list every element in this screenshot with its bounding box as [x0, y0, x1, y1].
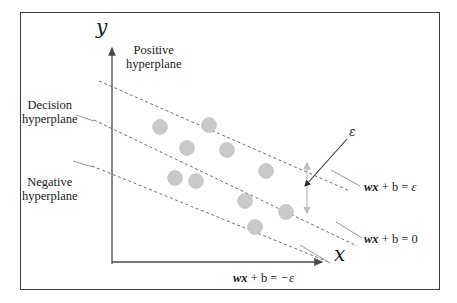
negative-equation-leader: [300, 245, 330, 263]
decision-label-leader: [76, 115, 94, 121]
negative-eq-value: −ε: [280, 271, 293, 285]
x-axis-label: x: [334, 243, 345, 265]
positive-eq-value: ε: [411, 180, 416, 194]
data-point: [168, 171, 183, 186]
positive-hyperplane-line: [99, 81, 350, 191]
data-point: [279, 205, 294, 220]
negative-label-leader: [73, 161, 93, 167]
data-point: [220, 143, 235, 158]
figure-root: y x Positive hyperplane Decision hyperpl…: [0, 0, 457, 303]
data-point: [248, 220, 263, 235]
data-point: [238, 194, 253, 209]
data-point: [202, 118, 217, 133]
data-point: [189, 174, 204, 189]
decision-equation-leader: [336, 222, 362, 238]
positive-hyperplane-equation: wx + b = ε: [364, 180, 416, 194]
decision-eq-operator: + b =: [379, 232, 412, 246]
positive-hyperplane-label: Positive hyperplane: [126, 43, 182, 71]
positive-eq-vector: wx: [364, 180, 379, 194]
negative-eq-vector: wx: [233, 271, 248, 285]
negative-hyperplane-line: [92, 166, 331, 263]
negative-hyperplane-label: Negative hyperplane: [22, 175, 78, 203]
epsilon-pointer-arrow: [305, 139, 347, 186]
epsilon-label: ε: [349, 126, 355, 139]
decision-eq-vector: wx: [364, 232, 379, 246]
decision-hyperplane-equation: wx + b = 0: [364, 232, 418, 246]
decision-eq-value: 0: [411, 232, 417, 246]
data-point: [180, 141, 195, 156]
positive-equation-leader: [331, 170, 360, 186]
negative-hyperplane-equation: wx + b = −ε: [233, 271, 294, 285]
figure-graphics: [0, 0, 457, 303]
data-point: [259, 164, 274, 179]
positive-eq-operator: + b =: [379, 180, 412, 194]
negative-eq-operator: + b =: [248, 271, 281, 285]
decision-hyperplane-label: Decision hyperplane: [22, 98, 78, 126]
data-point: [153, 120, 168, 135]
y-axis-label: y: [96, 16, 107, 38]
